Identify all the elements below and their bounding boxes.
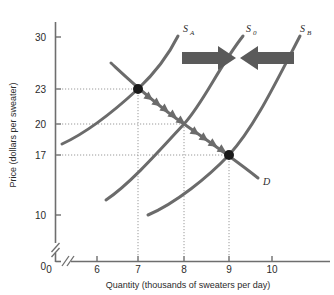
equilibrium-dot-b: [224, 150, 234, 160]
chart-background: [0, 0, 334, 295]
curve-label-sb-letter: S: [300, 23, 305, 34]
y-tick-label-17: 17: [35, 150, 47, 161]
x-tick-label-7: 7: [135, 264, 141, 275]
chart-svg: 30 23 20 17 10 0 0 6 7 8 9 10: [0, 0, 334, 295]
curve-label-s0-letter: S: [246, 23, 251, 34]
equilibrium-dot-a: [133, 84, 143, 94]
y-axis-title: Price (dollars per sweater): [8, 82, 18, 187]
x-axis-title: Quantity (thousands of sweaters per day): [106, 280, 271, 290]
y-tick-label-10: 10: [35, 210, 47, 221]
x-tick-label-9: 9: [226, 264, 232, 275]
curve-label-d: D: [262, 176, 271, 187]
y-tick-label-20: 20: [35, 119, 47, 130]
curve-label-sa-subscript: A: [189, 29, 195, 37]
supply-demand-chart: 30 23 20 17 10 0 0 6 7 8 9 10: [0, 0, 334, 295]
y-tick-label-23: 23: [35, 84, 47, 95]
x-tick-label-10: 10: [266, 264, 278, 275]
x-tick-label-8: 8: [181, 264, 187, 275]
curve-label-sb-subscript: B: [307, 29, 312, 37]
curve-label-s0-subscript: 0: [253, 29, 257, 37]
x-tick-label-6: 6: [94, 264, 100, 275]
y-tick-label-30: 30: [35, 32, 47, 43]
x-tick-label-0: 0: [46, 264, 52, 275]
curve-label-sa-letter: S: [183, 23, 188, 34]
